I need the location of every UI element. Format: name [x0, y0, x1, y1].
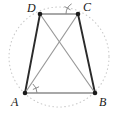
vertex-dot-B	[93, 91, 98, 96]
vertex-label-D: D	[27, 2, 36, 14]
vertex-label-A: A	[11, 96, 18, 108]
vertex-dot-D	[38, 12, 43, 17]
trapezoid-sides	[25, 14, 95, 93]
diagonals	[25, 14, 95, 93]
vertex-label-C: C	[83, 1, 91, 13]
vertex-dot-C	[76, 12, 81, 17]
vertex-label-B: B	[99, 96, 106, 108]
vertex-dot-A	[23, 91, 28, 96]
geometry-figure: DCAB	[0, 0, 118, 118]
